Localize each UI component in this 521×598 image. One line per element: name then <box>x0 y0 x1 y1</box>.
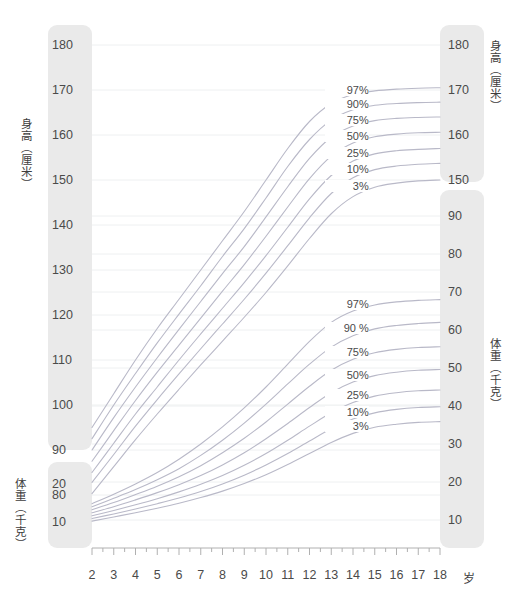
percentile-label-height-10: 10% <box>325 163 369 175</box>
left-weight-axis-title: 体重（千克） <box>14 478 26 550</box>
x-axis-unit-label: 岁 <box>463 569 475 586</box>
left-height-tick-label: 110 <box>52 354 88 367</box>
percentile-label-height-97: 97% <box>325 84 369 96</box>
left-height-tick-label: 100 <box>52 399 88 412</box>
percentile-label-weight-10: 10% <box>325 406 369 418</box>
percentile-label-height-75: 75% <box>325 114 369 126</box>
right-height-axis-title: 身高（厘米） <box>489 40 501 112</box>
percentile-label-weight-75: 75% <box>325 346 369 358</box>
percentile-curve-height-97 <box>92 88 440 428</box>
growth-chart: 1801701601501401301201101009080201018017… <box>0 0 521 598</box>
left-height-tick-label: 120 <box>52 309 88 322</box>
percentile-curve-weight-3 <box>92 422 440 522</box>
right-height-tick-label: 160 <box>448 129 484 142</box>
left-height-tick-label: 130 <box>52 264 88 277</box>
right-weight-tick-label: 90 <box>448 210 484 223</box>
right-weight-tick-label: 10 <box>448 514 484 527</box>
percentile-label-weight-3: 3% <box>325 420 369 432</box>
percentile-label-weight-90: 90 % <box>325 322 369 334</box>
right-weight-tick-label: 30 <box>448 438 484 451</box>
right-weight-tick-label: 80 <box>448 248 484 261</box>
right-weight-tick-label: 60 <box>448 324 484 337</box>
percentile-curve-height-3 <box>92 180 440 494</box>
percentile-label-weight-25: 25% <box>325 389 369 401</box>
left-weight-tick-label: 10 <box>52 516 88 529</box>
percentile-curve-height-50 <box>92 132 440 461</box>
left-height-tick-label: 160 <box>52 129 88 142</box>
right-weight-tick-label: 20 <box>448 476 484 489</box>
percentile-curve-weight-10 <box>92 407 440 519</box>
left-height-tick-label: 140 <box>52 219 88 232</box>
right-height-tick-label: 150 <box>448 174 484 187</box>
percentile-curve-height-10 <box>92 163 440 482</box>
percentile-label-height-90: 90% <box>325 98 369 110</box>
left-height-axis-title: 身高（厘米） <box>20 118 32 190</box>
left-height-tick-label: 150 <box>52 174 88 187</box>
right-height-tick-label: 170 <box>448 84 484 97</box>
percentile-label-height-50: 50% <box>325 130 369 142</box>
percentile-label-height-25: 25% <box>325 147 369 159</box>
percentile-label-height-3: 3% <box>325 180 369 192</box>
x-tick-label: 18 <box>420 568 460 582</box>
right-weight-tick-label: 50 <box>448 362 484 375</box>
right-weight-tick-label: 40 <box>448 400 484 413</box>
percentile-label-weight-50: 50% <box>325 369 369 381</box>
right-weight-axis-title: 体重（千克） <box>489 338 501 410</box>
left-height-tick-label: 180 <box>52 39 88 52</box>
left-height-tick-label: 170 <box>52 84 88 97</box>
left-weight-tick-label: 20 <box>52 478 88 491</box>
right-weight-tick-label: 70 <box>448 286 484 299</box>
left-height-tick-label: 90 <box>52 444 88 457</box>
right-height-tick-label: 180 <box>448 39 484 52</box>
percentile-label-weight-97: 97% <box>325 298 369 310</box>
